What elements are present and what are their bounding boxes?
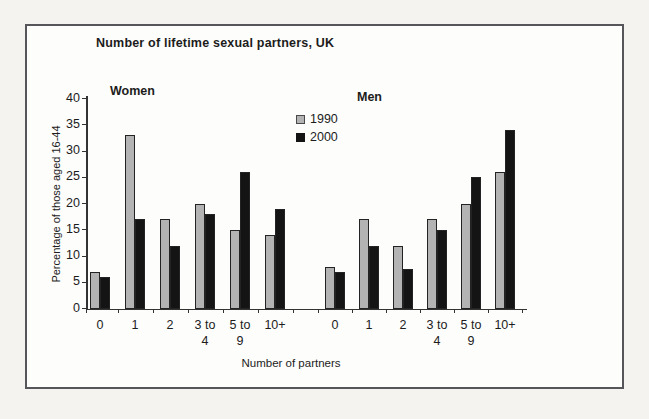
legend: 1990 2000 [296,112,338,144]
chart-title: Number of lifetime sexual partners, UK [96,36,334,50]
y-axis-title: Percentage of those aged 16-44 [50,125,62,282]
legend-label-2000: 2000 [310,130,338,144]
legend-item-1990: 1990 [296,112,338,126]
scanned-chart-page: Number of lifetime sexual partners, UK W… [0,0,649,419]
legend-swatch-2000-icon [296,133,305,142]
legend-item-2000: 2000 [296,130,338,144]
legend-label-1990: 1990 [310,112,338,126]
group-label-women: Women [110,84,155,98]
group-label-men: Men [357,90,382,104]
legend-swatch-1990-icon [296,115,305,124]
chart-frame [25,24,624,389]
x-axis-title: Number of partners [241,357,340,369]
